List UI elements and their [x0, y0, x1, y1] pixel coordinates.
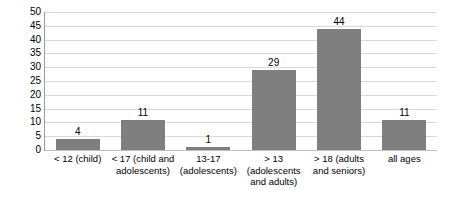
bar[interactable]	[56, 139, 100, 150]
bar[interactable]	[186, 147, 230, 150]
bar[interactable]	[382, 120, 426, 150]
y-axis-tick-label: 15	[3, 104, 41, 114]
bar-slot: 11	[382, 12, 426, 150]
y-axis-tick-label: 40	[3, 35, 41, 45]
y-axis-tick-label: 50	[3, 7, 41, 17]
y-axis-tick-label: 5	[3, 131, 41, 141]
bar[interactable]	[121, 120, 165, 150]
bar-series: 4111294411	[45, 12, 437, 150]
y-axis-tick-label: 20	[3, 90, 41, 100]
bar-chart: 05101520253035404550 4111294411 < 12 (ch…	[0, 0, 453, 201]
y-axis-tick-label: 45	[3, 21, 41, 31]
bar[interactable]	[317, 29, 361, 150]
bar-value-label: 11	[382, 107, 426, 118]
bar-slot: 4	[56, 12, 100, 150]
x-axis-category-label: all ages	[366, 153, 443, 165]
bar-slot: 11	[121, 12, 165, 150]
bar-value-label: 44	[317, 16, 361, 27]
y-axis-tick-label: 10	[3, 117, 41, 127]
bar-slot: 1	[186, 12, 230, 150]
bar[interactable]	[252, 70, 296, 150]
y-axis-tick-label: 25	[3, 76, 41, 86]
gridline	[45, 150, 437, 151]
bar-slot: 44	[317, 12, 361, 150]
bar-slot: 29	[252, 12, 296, 150]
y-axis-tick-label: 0	[3, 145, 41, 155]
bar-value-label: 1	[186, 134, 230, 145]
bar-value-label: 29	[252, 57, 296, 68]
y-axis-tick-labels: 05101520253035404550	[0, 0, 41, 201]
y-axis-tick-label: 30	[3, 62, 41, 72]
y-axis-tick-label: 35	[3, 48, 41, 58]
x-axis-category-labels: < 12 (child)< 17 (child and adolescents)…	[45, 153, 437, 201]
bar-value-label: 4	[56, 126, 100, 137]
bar-value-label: 11	[121, 107, 165, 118]
